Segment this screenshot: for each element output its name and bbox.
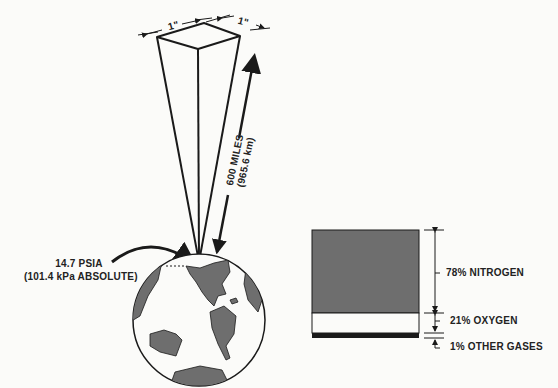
other-gases-label: 1% OTHER GASES: [450, 341, 543, 352]
oxygen-label: 21% OXYGEN: [450, 315, 518, 326]
pressure-psia-label: 14.7 PSIA: [24, 258, 134, 269]
nitrogen-label: 78% NITROGEN: [446, 267, 524, 278]
pressure-kpa-label: (101.4 kPa ABSOLUTE): [24, 271, 134, 282]
earth-globe-icon: [130, 254, 265, 386]
diagram-canvas: [0, 0, 558, 388]
composition-bar: [312, 230, 419, 338]
nitrogen-segment: [312, 230, 419, 313]
air-column: [157, 23, 240, 262]
other-gases-segment: [312, 333, 419, 338]
pressure-label: 14.7 PSIA (101.4 kPa ABSOLUTE): [24, 258, 134, 282]
oxygen-segment: [312, 313, 419, 333]
composition-dimensions: [424, 230, 444, 348]
